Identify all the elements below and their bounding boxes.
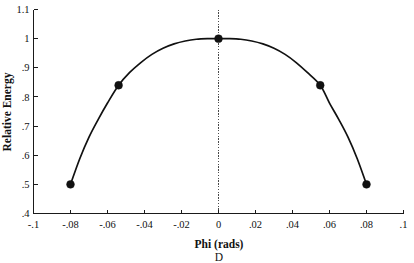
y-axis-title: Relative Energy xyxy=(1,72,14,151)
x-axis-tick-labels: -.1-.08-.06-.04-.020.02.04.06.08.1 xyxy=(28,219,408,230)
data-point xyxy=(363,180,371,188)
data-point xyxy=(215,35,223,43)
y-axis-tick-label: .6 xyxy=(22,150,30,161)
x-axis-tick-label: -.1 xyxy=(28,219,39,230)
x-axis-tick-label: .08 xyxy=(360,219,373,230)
y-axis-tick-label: 1 xyxy=(24,33,29,44)
data-point xyxy=(67,180,75,188)
y-axis-tick-labels: .4.5.6.7.8.911.1 xyxy=(16,4,30,219)
chart-canvas: -.1-.08-.06-.04-.020.02.04.06.08.1 .4.5.… xyxy=(0,0,414,263)
x-axis-tick-label: .1 xyxy=(400,219,408,230)
x-axis-tick-label: -.04 xyxy=(136,219,153,230)
y-axis-tick-label: .7 xyxy=(22,121,30,132)
x-axis-tick-label: 0 xyxy=(216,219,221,230)
x-axis-tick-label: .04 xyxy=(286,219,300,230)
y-axis-tick-label: .8 xyxy=(22,92,30,103)
x-axis-tick-label: .02 xyxy=(249,219,262,230)
y-axis-tick-label: .4 xyxy=(22,208,31,219)
y-axis-tick-label: .5 xyxy=(22,179,30,190)
x-axis-tick-label: -.06 xyxy=(99,219,116,230)
panel-label: D xyxy=(215,251,223,263)
relative-energy-chart: -.1-.08-.06-.04-.020.02.04.06.08.1 .4.5.… xyxy=(0,0,414,263)
x-axis-title: Phi (rads) xyxy=(195,238,244,251)
y-axis-tick-label: .9 xyxy=(22,62,30,73)
x-axis-tick-label: .06 xyxy=(323,219,336,230)
data-point xyxy=(316,81,324,89)
y-axis-tick-label: 1.1 xyxy=(16,4,29,15)
x-axis-tick-label: -.08 xyxy=(62,219,79,230)
x-axis-tick-label: -.02 xyxy=(173,219,190,230)
data-point xyxy=(115,81,123,89)
